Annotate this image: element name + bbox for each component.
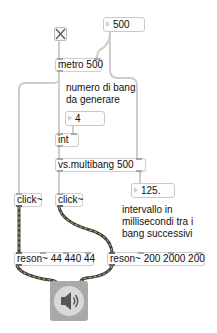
inlet[interactable] <box>40 252 46 254</box>
metro-object[interactable]: metro 500 <box>55 58 102 72</box>
inlet[interactable] <box>136 158 142 160</box>
toggle[interactable] <box>54 27 67 41</box>
multibang-object[interactable]: vs.multibang 500 <box>55 158 146 172</box>
outlet[interactable] <box>57 145 63 147</box>
comment-num-bang: numero di bang da generare <box>66 82 136 106</box>
inlet[interactable] <box>57 133 63 135</box>
number-value: 500 <box>113 19 130 30</box>
signal-outlet[interactable] <box>16 264 22 266</box>
signal-outlet[interactable] <box>57 205 63 207</box>
inlet[interactable] <box>196 252 202 254</box>
inlet[interactable] <box>168 252 174 254</box>
inlet[interactable] <box>63 252 69 254</box>
inlet[interactable] <box>85 252 91 254</box>
comment-interval: intervallo in millisecondi tra i bang su… <box>122 204 193 240</box>
outlet[interactable] <box>57 170 63 172</box>
signal-outlet[interactable] <box>16 205 22 207</box>
number-box-count[interactable]: 4 <box>65 111 105 126</box>
x-toggle-icon <box>55 28 66 40</box>
comment-line: bang successivi <box>122 228 193 240</box>
number-value: 4 <box>75 113 81 124</box>
outlet[interactable] <box>136 170 142 172</box>
inlet[interactable] <box>109 252 115 254</box>
inlet[interactable] <box>71 133 77 135</box>
signal-outlet[interactable] <box>109 264 115 266</box>
object-text: int <box>58 134 69 145</box>
object-text: click~ <box>17 194 42 205</box>
reson-object-left[interactable]: reson~ 44 440 44 <box>14 252 94 266</box>
inlet[interactable] <box>16 193 22 195</box>
inlet[interactable] <box>57 193 63 195</box>
inlet[interactable] <box>16 252 22 254</box>
inlet[interactable] <box>94 58 100 60</box>
number-triangle-icon <box>134 187 138 193</box>
speaker-icon <box>50 281 88 321</box>
comment-line: numero di bang <box>66 82 136 94</box>
cord-metro-click-left <box>19 74 59 193</box>
comment-line: millisecondi tra i <box>122 216 193 228</box>
object-text: metro 500 <box>58 59 103 70</box>
number-box-interval-out[interactable]: 125. <box>131 183 175 198</box>
comment-line: intervallo in <box>122 204 193 216</box>
inlet[interactable] <box>57 158 63 160</box>
cord-number-metro <box>97 32 110 58</box>
click-object-right[interactable]: click~ <box>55 193 83 207</box>
number-box-interval[interactable]: 500 <box>103 17 145 32</box>
reson-object-right[interactable]: reson~ 200 2000 200 <box>107 252 205 266</box>
click-object-left[interactable]: click~ <box>14 193 42 207</box>
comment-line: da generare <box>66 94 136 106</box>
number-triangle-icon <box>106 21 110 27</box>
number-value: 125. <box>141 185 160 196</box>
ezdac-speaker[interactable] <box>50 281 88 321</box>
object-text: vs.multibang 500 <box>58 159 134 170</box>
inlet[interactable] <box>138 252 144 254</box>
object-text: click~ <box>58 194 83 205</box>
number-triangle-icon <box>68 115 72 121</box>
outlet[interactable] <box>57 70 63 72</box>
object-text: reson~ 200 2000 200 <box>110 253 205 264</box>
inlet[interactable] <box>57 58 63 60</box>
object-text: reson~ 44 440 44 <box>17 253 95 264</box>
int-object[interactable]: int <box>55 133 79 147</box>
